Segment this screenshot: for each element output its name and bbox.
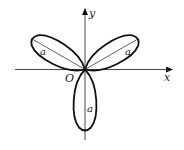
x-axis-label: x (164, 71, 171, 84)
origin-label: O (65, 72, 74, 85)
petal-label-lower: a (87, 103, 93, 114)
petal-label-upper-left: a (40, 46, 46, 57)
y-axis-label: y (88, 7, 96, 20)
petal-label-upper-right: a (125, 46, 131, 57)
petal-upper-left (26, 29, 90, 79)
petal-upper-right (79, 29, 143, 79)
rose-diagram: y x O a a a (0, 0, 184, 150)
